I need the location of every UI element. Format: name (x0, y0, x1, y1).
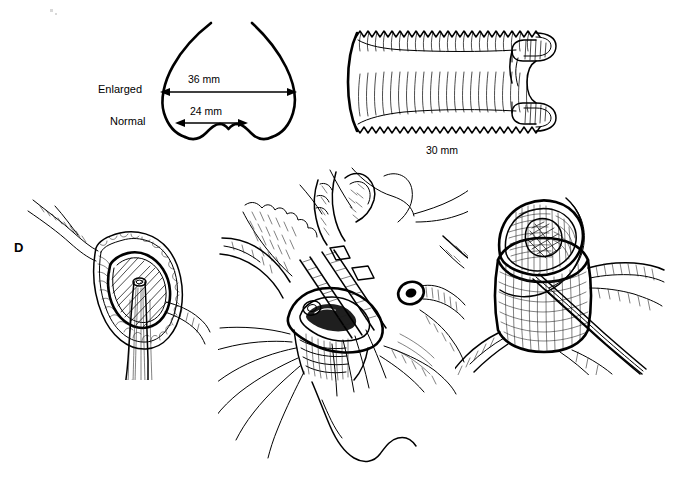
scan-speck (55, 13, 57, 15)
dimension-arrow-enlarged (160, 88, 297, 96)
label-normal: Normal (110, 116, 145, 127)
surgical-panel-annulus (28, 200, 210, 397)
scan-speck (50, 9, 53, 12)
measurement-24mm: 24 mm (190, 106, 222, 117)
panel-letter-d: D (14, 241, 23, 254)
label-enlarged: Enlarged (98, 84, 142, 95)
graft-cuff (510, 33, 556, 131)
measurement-36mm: 36 mm (188, 74, 220, 85)
vascular-graft-drawing (348, 31, 556, 133)
illustration-canvas (0, 0, 679, 484)
figure-root: Enlarged Normal 36 mm 24 mm 30 mm D (0, 0, 679, 484)
surgical-panel-anastomosis (196, 168, 486, 461)
measurement-30mm: 30 mm (426, 145, 458, 156)
surgical-panel-insertion (448, 198, 664, 380)
dimension-arrow-normal (175, 119, 248, 127)
